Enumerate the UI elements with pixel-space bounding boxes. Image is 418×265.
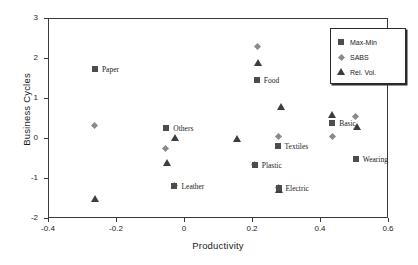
- legend-item-max-min: Max-Min: [337, 36, 377, 48]
- y-tick-label: 3: [12, 13, 38, 22]
- x-tick-mark: [320, 218, 321, 222]
- point-label: Basic: [339, 119, 356, 128]
- legend-label: Rel. Vol.: [350, 69, 376, 76]
- y-tick-mark: [44, 138, 48, 139]
- x-tick-label: 0.4: [300, 224, 340, 233]
- square-marker: [171, 183, 177, 189]
- scatter-chart: -0.4-0.200.20.40.6 3210-1-2 PaperOthersL…: [0, 0, 418, 265]
- y-tick-label: -2: [12, 213, 38, 222]
- point-label: Textiles: [285, 142, 309, 151]
- point-label: Leather: [181, 182, 204, 191]
- legend-label: Max-Min: [350, 39, 377, 46]
- y-axis-title: Business Cycles: [21, 40, 32, 180]
- triangle-marker: [328, 111, 336, 118]
- y-tick-mark: [44, 218, 48, 219]
- point-label: Plastic: [262, 161, 282, 170]
- legend-swatch: [337, 53, 345, 61]
- chart-legend: Max-MinSABSRel. Vol.: [330, 28, 406, 84]
- x-tick-mark: [388, 218, 389, 222]
- triangle-marker: [91, 195, 99, 202]
- square-marker: [92, 66, 98, 72]
- legend-label: SABS: [350, 54, 369, 61]
- x-tick-mark: [252, 218, 253, 222]
- y-tick-mark: [44, 98, 48, 99]
- x-tick-mark: [116, 218, 117, 222]
- square-marker: [254, 77, 260, 83]
- y-tick-mark: [44, 58, 48, 59]
- legend-swatch: [337, 68, 345, 76]
- x-tick-mark: [48, 218, 49, 222]
- square-marker: [275, 143, 281, 149]
- triangle-marker: [254, 59, 262, 66]
- square-marker: [276, 185, 282, 191]
- point-label: Electric: [286, 184, 309, 193]
- y-tick-mark: [44, 178, 48, 179]
- y-tick-mark: [44, 18, 48, 19]
- x-tick-label: 0.6: [368, 224, 408, 233]
- x-tick-mark: [184, 218, 185, 222]
- point-label: Others: [173, 124, 193, 133]
- point-label: Wearing: [363, 155, 388, 164]
- x-tick-label: -0.2: [96, 224, 136, 233]
- x-tick-label: 0: [164, 224, 204, 233]
- square-marker: [353, 156, 359, 162]
- square-marker: [163, 125, 169, 131]
- triangle-marker: [163, 159, 171, 166]
- x-axis-title: Productivity: [48, 240, 388, 251]
- x-tick-label: 0.2: [232, 224, 272, 233]
- square-marker: [252, 162, 258, 168]
- legend-item-rel-vol: Rel. Vol.: [337, 66, 376, 78]
- legend-item-sabs: SABS: [337, 51, 369, 63]
- diamond-marker: [337, 53, 344, 60]
- point-label: Food: [264, 76, 279, 85]
- square-marker: [329, 120, 335, 126]
- triangle-marker: [337, 68, 345, 75]
- triangle-marker: [233, 135, 241, 142]
- square-marker: [338, 39, 344, 45]
- x-tick-label: -0.4: [28, 224, 68, 233]
- point-label: Paper: [102, 65, 119, 74]
- triangle-marker: [277, 103, 285, 110]
- legend-swatch: [337, 38, 345, 46]
- triangle-marker: [171, 134, 179, 141]
